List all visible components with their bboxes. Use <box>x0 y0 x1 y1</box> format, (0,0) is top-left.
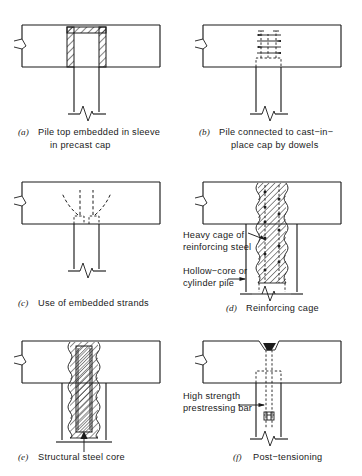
panel-f-anchor-block <box>264 412 274 420</box>
panel-a-caption: (a) Pile top embedded in sleeve in preca… <box>18 127 160 150</box>
panel-a-pile-stem <box>68 67 106 114</box>
panel-c-letter: (c) <box>18 298 28 308</box>
panel-e-caption: (e) Structural steel core <box>18 452 125 462</box>
panel-b-break-symbol-cap <box>195 39 207 49</box>
panel-e-caption-line1: Structural steel core <box>38 452 125 462</box>
panel-d-letter: (d) <box>226 303 237 313</box>
panel-d-break-symbol-cap <box>195 196 207 206</box>
panel-a-caption-line1: Pile top embedded in sleeve <box>38 127 160 137</box>
panel-e-break-symbol-cap <box>14 355 26 365</box>
panel-c-caption: (c) Use of embedded strands <box>18 298 149 308</box>
annotation-prestressing-bar-arrowhead <box>259 403 266 407</box>
panel-f-anchorage-cone <box>259 341 279 351</box>
panel-b: (b) Pile connected to cast−in− place cap… <box>195 25 341 150</box>
annotation-prestressing-bar-line1: High strength <box>183 391 240 401</box>
panel-f-pile-stem <box>250 383 288 439</box>
annotation-prestressing-bar: High strength prestressing bar <box>183 391 265 413</box>
panel-f-caption-line1: Post−tensioning <box>253 452 322 462</box>
panel-a: (a) Pile top embedded in sleeve in preca… <box>14 25 160 150</box>
panel-b-caption-line2: place cap by dowels <box>231 140 319 150</box>
panel-a-caption-line2: in precast cap <box>50 140 111 150</box>
pile-cap-connection-figure: (a) Pile top embedded in sleeve in preca… <box>0 0 362 476</box>
panel-f-letter: (f) <box>233 452 242 462</box>
annotation-heavy-cage-line1: Heavy cage of <box>183 230 245 240</box>
annotation-heavy-cage-line2: reinforcing steel <box>183 242 251 252</box>
annotation-prestressing-bar-line2: prestressing bar <box>183 403 252 413</box>
panel-a-sleeve <box>67 27 106 67</box>
panel-f-break-symbol-cap <box>195 355 207 365</box>
panel-a-break-symbol-cap <box>14 39 26 49</box>
annotation-hollow-core-line2: cylinder pile <box>183 278 234 288</box>
panel-c: (c) Use of embedded strands <box>14 182 160 308</box>
panel-c-pile-stem <box>68 224 106 271</box>
panel-b-caption: (b) Pile connected to cast−in− place cap… <box>199 127 333 150</box>
figure-canvas: (a) Pile top embedded in sleeve in preca… <box>0 0 362 476</box>
panel-b-pile-stem <box>250 67 288 114</box>
panel-b-pile-head-outline <box>256 58 281 67</box>
annotation-hollow-core-line1: Hollow−core or <box>183 266 247 276</box>
panel-c-break-symbol-cap <box>14 196 26 206</box>
annotation-hollow-core-arrowhead <box>240 277 247 281</box>
panel-c-break-symbol-pile <box>80 263 93 278</box>
panel-b-caption-line1: Pile connected to cast−in− <box>219 127 333 137</box>
panel-a-letter: (a) <box>18 127 29 137</box>
panel-e-steel-core <box>76 346 92 432</box>
panel-e-letter: (e) <box>18 452 28 462</box>
panel-b-break-symbol-pile <box>262 106 275 121</box>
panel-c-embedded-strands <box>62 190 111 224</box>
panel-f-break-symbol-pile <box>262 431 275 446</box>
panel-f-caption: (f) Post−tensioning <box>233 452 322 462</box>
panel-b-dowels <box>257 31 281 58</box>
panel-d-reinforcing-cage <box>256 183 288 283</box>
panel-b-letter: (b) <box>199 127 210 137</box>
panel-f: High strength prestressing bar (f) Post−… <box>183 341 341 462</box>
panel-e: (e) Structural steel core <box>14 341 160 462</box>
panel-c-cap-outline <box>22 182 160 224</box>
annotation-heavy-cage: Heavy cage of reinforcing steel <box>183 230 266 252</box>
panel-b-cap-outline <box>203 25 341 67</box>
panel-c-caption-line1: Use of embedded strands <box>38 298 149 308</box>
annotation-hollow-core: Hollow−core or cylinder pile <box>183 266 247 288</box>
panel-d-caption-line1: Reinforcing cage <box>246 303 319 313</box>
panel-f-pile-head-outline <box>256 371 281 383</box>
panel-d-caption: (d) Reinforcing cage <box>226 303 319 313</box>
panel-d: Heavy cage of reinforcing steel Hollow−c… <box>183 182 341 313</box>
panel-a-break-symbol-pile <box>80 106 93 121</box>
